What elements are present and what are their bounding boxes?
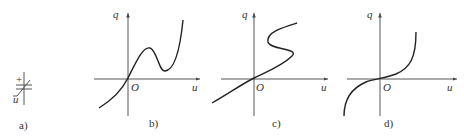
origin-label: O (131, 81, 139, 93)
y-label: q (113, 8, 119, 20)
x-label: u (192, 81, 198, 93)
curve-b (99, 20, 183, 108)
caption-a: a) (19, 119, 28, 132)
origin-label: O (383, 81, 391, 93)
plus-sign: + (16, 73, 22, 85)
curve-c (212, 23, 297, 103)
caption-d: d) (384, 117, 394, 130)
caption-b: b) (149, 117, 159, 130)
panel-d: q O u d) (344, 8, 457, 130)
caption-c: c) (272, 117, 281, 130)
figure-canvas: + u a) q O u b) q O u c) q O u d) (0, 0, 464, 138)
x-label: u (447, 81, 453, 93)
x-label: u (321, 81, 327, 93)
y-label: q (242, 8, 248, 20)
origin-label: O (256, 81, 264, 93)
y-label: q (367, 8, 373, 20)
panel-c: q O u c) (212, 8, 328, 130)
panel-b: q O u b) (94, 8, 200, 130)
voltage-label: u (13, 93, 19, 105)
panel-a: + u a) (13, 72, 32, 132)
